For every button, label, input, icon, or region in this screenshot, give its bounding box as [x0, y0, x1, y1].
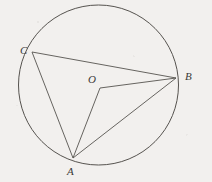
segment-CA: [32, 52, 73, 158]
vertex-label-a: A: [67, 166, 74, 177]
vertex-label-b: B: [185, 71, 192, 82]
vertex-label-c: C: [20, 45, 27, 56]
main-circle: [19, 5, 179, 165]
geometry-figure: C B A O: [0, 0, 212, 182]
geometry-canvas: [0, 0, 212, 182]
segment-CB: [32, 52, 176, 78]
vertex-label-o: O: [88, 74, 96, 85]
